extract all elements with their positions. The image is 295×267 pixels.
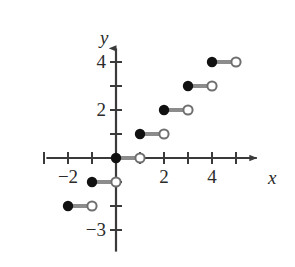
closed-endpoint-1: [87, 177, 97, 187]
x-tick-label--2: −2: [48, 167, 88, 186]
y-axis-label: y: [100, 28, 108, 47]
closed-endpoint-3: [135, 129, 145, 139]
open-endpoint-1: [111, 177, 120, 186]
x-tick-label-2: 2: [144, 167, 184, 186]
x-tick-label-4: 4: [192, 167, 232, 186]
x-axis-label: x: [268, 168, 276, 187]
step-function-chart: [0, 0, 295, 267]
open-endpoint-6: [231, 57, 240, 66]
closed-endpoint-5: [183, 81, 193, 91]
closed-endpoint-6: [207, 57, 217, 67]
y-tick-label--3: −3: [64, 220, 106, 239]
open-endpoint-3: [159, 129, 168, 138]
open-endpoint-2: [135, 153, 144, 162]
open-endpoint-0: [87, 201, 96, 210]
open-endpoint-4: [183, 105, 192, 114]
closed-endpoint-0: [63, 201, 73, 211]
closed-endpoint-4: [159, 105, 169, 115]
closed-endpoint-2: [111, 153, 121, 163]
y-tick-label-2: 2: [64, 100, 106, 119]
open-endpoint-5: [207, 81, 216, 90]
y-tick-label-4: 4: [64, 52, 106, 71]
